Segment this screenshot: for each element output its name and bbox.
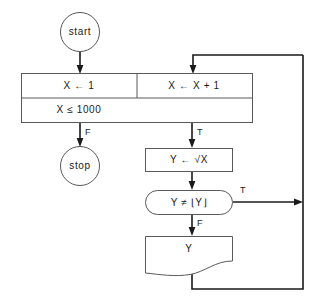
node-stop: stop xyxy=(61,147,100,186)
flowchart-diagram: start X ← 1 X ← X + 1 X ≤ 1000 stop Y ← … xyxy=(0,0,314,301)
node-start: start xyxy=(61,13,100,52)
node-assign-sqrt-label: Y ← √X xyxy=(170,154,208,165)
edge-condition-false xyxy=(77,123,84,147)
edge-sqrt-to-test xyxy=(189,172,196,190)
edge-loop-return-top xyxy=(190,55,303,74)
node-start-label: start xyxy=(69,26,91,37)
node-increment-label: X ← X + 1 xyxy=(168,80,219,91)
edge-label-test-true: T xyxy=(240,185,246,195)
node-assign-sqrt: Y ← √X xyxy=(146,149,233,172)
node-stop-label: stop xyxy=(69,160,90,171)
edge-condition-true xyxy=(189,123,196,148)
edge-test-false xyxy=(189,215,196,236)
node-output-document: Y xyxy=(146,237,233,276)
edge-test-true xyxy=(233,199,303,206)
edge-label-condition-false: F xyxy=(85,127,91,137)
node-test-floor-label: Y ≠ ⌊Y⌋ xyxy=(171,197,207,208)
flowchart-canvas: start X ← 1 X ← X + 1 X ≤ 1000 stop Y ← … xyxy=(0,0,314,301)
node-loop-header-box: X ← 1 X ← X + 1 X ≤ 1000 xyxy=(22,74,253,123)
edge-label-condition-true: T xyxy=(197,127,203,137)
node-test-floor: Y ≠ ⌊Y⌋ xyxy=(146,191,233,215)
edge-label-test-false: F xyxy=(197,218,203,228)
node-condition-label: X ≤ 1000 xyxy=(57,104,102,115)
node-output-label: Y xyxy=(185,243,192,254)
edge-start-to-init xyxy=(77,51,84,74)
node-init-label: X ← 1 xyxy=(64,80,95,91)
